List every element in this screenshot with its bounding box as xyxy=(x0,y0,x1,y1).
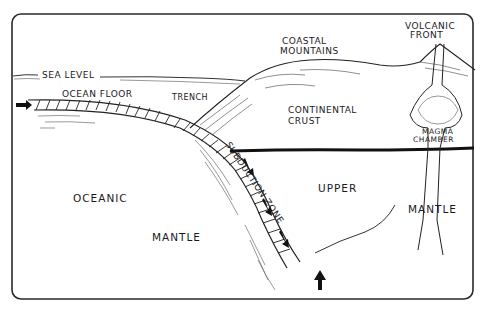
coastal-mountains-outline xyxy=(190,44,475,128)
plate-motion-arrow-icon xyxy=(16,100,32,110)
crust-base-line xyxy=(230,148,474,151)
image-frame xyxy=(12,14,473,150)
mantle-wedge-line xyxy=(315,205,395,253)
label-mantle-right: Mantle xyxy=(408,204,457,214)
label-ocean-floor: Ocean Floor xyxy=(62,89,133,99)
label-continental-crust-2: Crust xyxy=(288,116,321,126)
border xyxy=(12,14,473,150)
label-coastal-mountains-2: Mountains xyxy=(280,46,339,56)
border-line xyxy=(12,14,473,149)
plate-bottom xyxy=(34,110,287,268)
label-volcanic-front-2: Front xyxy=(410,30,443,40)
label-coastal-mountains-1: Coastal xyxy=(282,36,327,46)
frame-outline xyxy=(20,13,473,150)
magma-chamber xyxy=(418,96,458,124)
label-sea-level: Sea Level xyxy=(42,70,94,80)
outer-frame xyxy=(12,14,474,150)
label-magma-chamber-2: Chamber xyxy=(413,136,454,144)
frame-rect xyxy=(12,14,473,149)
label-trench: Trench xyxy=(172,93,208,103)
label-oceanic: Oceanic xyxy=(73,193,128,203)
subduction-diagram: Sea Level Ocean Floor Trench Coastal Mou… xyxy=(0,0,484,321)
label-upper: Upper xyxy=(318,183,357,193)
upward-arrow-icon xyxy=(314,270,326,290)
label-continental-crust-1: Continental xyxy=(288,105,357,115)
visible-frame xyxy=(21,14,472,149)
frame-real xyxy=(21,14,474,150)
subduction-arrow-icon-3 xyxy=(279,230,289,248)
label-mantle-left: Mantle xyxy=(152,232,201,242)
